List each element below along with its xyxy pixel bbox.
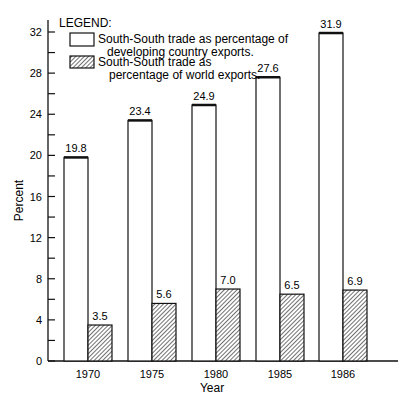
value-label: 24.9 [193,90,214,102]
y-tick-label: 4 [36,314,42,326]
y-tick-label: 20 [30,149,42,161]
value-label: 5.6 [156,288,171,300]
y-tick-label: 16 [30,191,42,203]
value-label: 6.9 [347,275,362,287]
value-label: 23.4 [129,105,150,117]
bar-world-exports-1980 [216,289,240,361]
bar-developing-exports-1980 [192,105,216,361]
bar-developing-exports-1985 [256,77,280,361]
legend-label-world: South-South trade as [98,55,211,69]
y-tick-label: 0 [36,355,42,367]
bar-developing-exports-1986 [319,33,343,361]
legend: LEGEND:South-South trade as percentage o… [59,16,289,82]
x-tick-label: 1986 [331,368,355,380]
y-tick-label: 12 [30,232,42,244]
y-tick-label: 28 [30,67,42,79]
y-tick-label: 8 [36,273,42,285]
legend-swatch-white [70,33,94,46]
x-tick-label: 1985 [268,368,292,380]
legend-label-developing: South-South trade as percentage of [98,32,289,46]
bar-world-exports-1970 [88,325,112,361]
y-axis-title: Percent [12,179,26,221]
x-tick-label: 1970 [76,368,100,380]
value-label: 19.8 [65,142,86,154]
bar-world-exports-1975 [152,303,176,361]
legend-title: LEGEND: [59,16,112,30]
value-label: 7.0 [220,274,235,286]
value-label: 3.5 [92,310,107,322]
value-label: 27.6 [257,62,278,74]
legend-label-world-2: percentage of world exports. [109,68,260,82]
legend-swatch-hatched [70,56,94,68]
bar-developing-exports-1970 [64,157,88,361]
bar-developing-exports-1975 [128,120,152,361]
x-tick-label: 1980 [204,368,228,380]
bar-world-exports-1986 [343,290,367,361]
y-tick-label: 32 [30,26,42,38]
x-tick-label: 1975 [140,368,164,380]
bar-world-exports-1985 [280,294,304,361]
y-tick-label: 24 [30,108,42,120]
value-label: 6.5 [284,279,299,291]
x-axis-title: Year [200,381,224,395]
value-label: 31.9 [320,18,341,30]
bar-chart: 048121620242832PercentYear 19.83.5197023… [0,0,410,402]
